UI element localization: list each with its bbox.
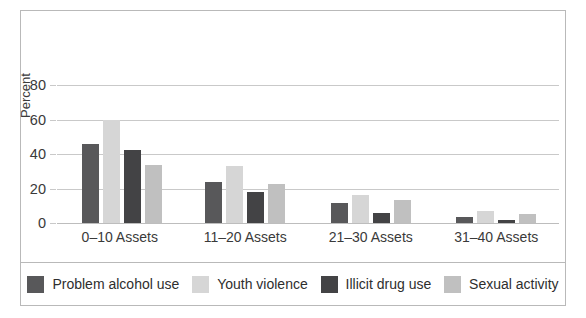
chart-legend: Problem alcohol useYouth violenceIllicit… [21, 262, 565, 305]
x-tick-label: 11–20 Assets [183, 229, 309, 245]
y-tick-label: 0 [38, 216, 46, 231]
gridline [57, 223, 559, 224]
bar [498, 220, 515, 223]
y-tick-mark [50, 223, 56, 224]
legend-item[interactable]: Problem alcohol use [27, 276, 179, 293]
legend-swatch-icon [27, 276, 44, 293]
y-tick-mark [50, 120, 56, 121]
y-tick-mark [50, 189, 56, 190]
chart-figure: Percent 020406080 0–10 Assets11–20 Asset… [0, 0, 586, 318]
y-tick-mark [50, 154, 56, 155]
legend-swatch-icon [321, 276, 338, 293]
bar [456, 217, 473, 223]
x-tick-label: 31–40 Assets [434, 229, 560, 245]
bar [477, 211, 494, 223]
bar [373, 213, 390, 223]
y-tick-mark [50, 85, 56, 86]
bar [145, 165, 162, 223]
legend-item[interactable]: Youth violence [192, 276, 308, 293]
plot-area [57, 68, 559, 223]
legend-label: Illicit drug use [346, 276, 432, 292]
bar [247, 192, 264, 223]
bar [331, 203, 348, 223]
legend-swatch-icon [444, 276, 461, 293]
bar [205, 182, 222, 223]
bar [268, 184, 285, 223]
bar-group [434, 68, 560, 223]
bar [352, 195, 369, 223]
y-tick-label: 60 [30, 113, 46, 128]
bar-group [57, 68, 183, 223]
legend-label: Sexual activity [469, 276, 558, 292]
bar [82, 144, 99, 223]
bar [103, 120, 120, 223]
x-tick-label: 0–10 Assets [57, 229, 183, 245]
bar [394, 200, 411, 223]
bar [226, 166, 243, 223]
bar-group [308, 68, 434, 223]
bar [124, 150, 141, 223]
y-tick-label: 40 [30, 147, 46, 162]
bar [519, 214, 536, 223]
x-tick-label: 21–30 Assets [308, 229, 434, 245]
y-tick-label: 20 [30, 182, 46, 197]
legend-swatch-icon [192, 276, 209, 293]
legend-label: Problem alcohol use [52, 276, 179, 292]
legend-item[interactable]: Sexual activity [444, 276, 558, 293]
legend-item[interactable]: Illicit drug use [321, 276, 432, 293]
legend-label: Youth violence [217, 276, 308, 292]
bar-group [183, 68, 309, 223]
y-tick-label: 80 [30, 78, 46, 93]
